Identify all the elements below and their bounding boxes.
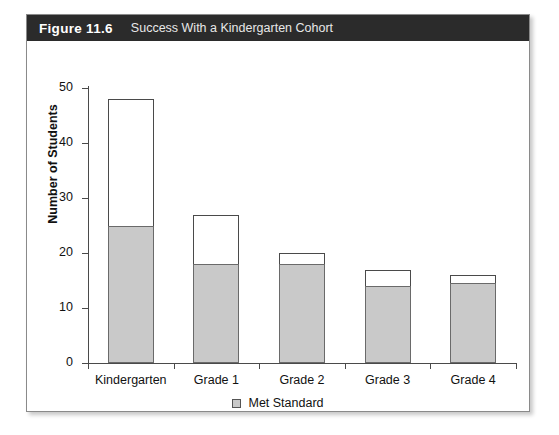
y-tick-label-10: 10 [29, 301, 73, 314]
y-tick-30 [82, 198, 88, 199]
figure-title-bar: Figure 11.6 Success With a Kindergarten … [27, 15, 529, 41]
x-tick-4 [430, 363, 431, 369]
y-axis-line [88, 86, 89, 364]
x-tick-2 [259, 363, 260, 369]
y-tick-label-50: 50 [29, 81, 73, 94]
x-tick-3 [345, 363, 346, 369]
y-tick-40 [82, 143, 88, 144]
y-tick-label-40: 40 [29, 136, 73, 149]
y-tick-label-30: 30 [29, 191, 73, 204]
bar-met-standard-grade-4 [450, 283, 496, 363]
x-tick-5 [516, 363, 517, 369]
x-axis-line [88, 363, 516, 364]
y-tick-label-0: 0 [29, 356, 73, 369]
figure-screenshot: Figure 11.6 Success With a Kindergarten … [0, 0, 559, 435]
x-tick-1 [174, 363, 175, 369]
figure-card: Figure 11.6 Success With a Kindergarten … [26, 14, 530, 412]
y-tick-20 [82, 253, 88, 254]
figure-title: Success With a Kindergarten Cohort [131, 21, 333, 35]
y-tick-label-20: 20 [29, 246, 73, 259]
x-tick-0 [88, 363, 89, 369]
bar-met-standard-grade-1 [193, 264, 239, 363]
bar-met-standard-grade-3 [365, 286, 411, 363]
chart-plot-area: Number of Students 01020304050 Kindergar… [27, 41, 529, 411]
y-axis-title: Number of Students [46, 84, 60, 244]
legend-swatch-met-standard [232, 399, 241, 408]
chart-legend: Met Standard [27, 396, 529, 410]
legend-label-met-standard: Met Standard [248, 396, 323, 410]
bar-met-standard-grade-2 [279, 264, 325, 363]
y-tick-10 [82, 308, 88, 309]
figure-number: Figure 11.6 [39, 21, 113, 36]
x-tick-label-grade-4: Grade 4 [418, 373, 528, 387]
bar-met-standard-kindergarten [108, 226, 154, 364]
y-tick-50 [82, 88, 88, 89]
